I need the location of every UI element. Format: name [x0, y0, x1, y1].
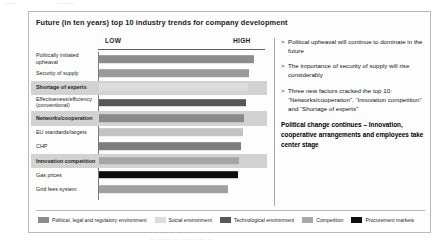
- legend-swatch: [220, 217, 231, 223]
- bar-row: Security of supply: [29, 66, 279, 80]
- bar-row-label: EU standards/targets: [36, 129, 96, 136]
- legend-swatch: [38, 217, 49, 223]
- screenshot-root: —— ——— Future (in ten years) top 10 indu…: [0, 0, 438, 246]
- bar: [99, 69, 249, 77]
- axis-label-high: HIGH: [233, 37, 251, 44]
- legend-item: Technological environment: [220, 217, 294, 223]
- bar-row: Grid fees system: [29, 182, 279, 196]
- bar: [99, 157, 239, 165]
- bar-row-label: Innovation competition: [36, 157, 96, 164]
- bar-row-label: Grid fees system: [36, 186, 96, 193]
- slide-card: Future (in ten years) top 10 industry tr…: [28, 11, 431, 233]
- legend-label: Competition: [316, 217, 343, 223]
- legend-item: Social environment: [155, 217, 212, 223]
- chevron-right-icon: >: [281, 62, 285, 71]
- bar: [99, 84, 248, 92]
- bar-row-label: Networks/cooperation: [36, 115, 96, 122]
- bar: [99, 99, 246, 107]
- legend-label: Social environment: [169, 217, 212, 223]
- scan-top-strip: —— ———: [0, 0, 438, 9]
- commentary-bullet: >Three new factors cracked the top 10: “…: [281, 87, 427, 114]
- bar-row: CHP: [29, 139, 279, 153]
- legend-divider: [36, 210, 425, 211]
- legend-swatch: [351, 217, 362, 223]
- conclusion-statement: Political change continues – Innovation,…: [281, 120, 427, 149]
- bar-row: Networks/cooperation: [29, 111, 279, 125]
- bar-row: Effectiveness/efficiency (conventional): [29, 95, 279, 111]
- bar-chart: LOW HIGH Politically initiated upheavalS…: [29, 36, 279, 206]
- commentary-panel: >Political upheaval will continue to dom…: [281, 38, 427, 149]
- bar: [99, 171, 238, 179]
- bar-row-label: Shortage of experts: [36, 84, 96, 91]
- axis-label-low: LOW: [105, 37, 121, 44]
- bar: [99, 185, 228, 193]
- chart-legend: Political, legal and regulatory environm…: [38, 217, 414, 223]
- commentary-text: Political upheaval will continue to domi…: [288, 38, 423, 54]
- legend-item: Procurement markets: [351, 217, 414, 223]
- bar-row: Politically initiated upheaval: [29, 52, 279, 66]
- bar-row: Gas prices: [29, 168, 279, 182]
- bar-row-label: CHP: [36, 143, 96, 150]
- commentary-bullet: >Political upheaval will continue to dom…: [281, 38, 427, 56]
- bar-row: Innovation competition: [29, 154, 279, 168]
- bar-row-label: Effectiveness/efficiency (conventional): [36, 96, 96, 109]
- legend-swatch: [155, 217, 166, 223]
- bar-row-list: Politically initiated upheavalSecurity o…: [29, 52, 279, 196]
- bar: [99, 143, 241, 151]
- legend-item: Political, legal and regulatory environm…: [38, 217, 147, 223]
- chevron-right-icon: >: [281, 87, 285, 96]
- bar-row-label: Politically initiated upheaval: [36, 53, 96, 66]
- commentary-text: The importance of security of supply wil…: [288, 62, 409, 78]
- top-ghost-right: ———: [58, 0, 75, 6]
- legend-swatch: [302, 217, 313, 223]
- legend-label: Procurement markets: [365, 217, 414, 223]
- top-ghost-left: ——: [4, 0, 15, 6]
- legend-label: Political, legal and regulatory environm…: [52, 217, 147, 223]
- bar-row: EU standards/targets: [29, 125, 279, 139]
- panel-divider: [274, 38, 275, 206]
- bar: [99, 128, 243, 136]
- axis-top-rule: [98, 49, 265, 50]
- bottom-caption-ghost: — —— — ———— —: [150, 236, 214, 242]
- legend-item: Competition: [302, 217, 343, 223]
- commentary-bullet: >The importance of security of supply wi…: [281, 62, 427, 80]
- bar-row-label: Gas prices: [36, 172, 96, 179]
- bar: [99, 114, 244, 122]
- commentary-text: Three new factors cracked the top 10: “N…: [288, 87, 421, 112]
- page-title: Future (in ten years) top 10 industry tr…: [36, 18, 288, 27]
- bar-row-label: Security of supply: [36, 70, 96, 77]
- bar: [99, 55, 254, 63]
- chevron-right-icon: >: [281, 38, 285, 47]
- bar-row: Shortage of experts: [29, 80, 279, 94]
- legend-label: Technological environment: [234, 217, 294, 223]
